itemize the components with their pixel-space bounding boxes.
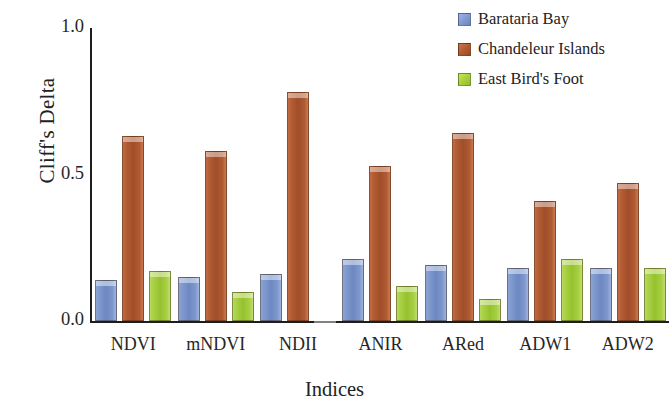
bar-group-ared [422,28,504,321]
bar-ndvi-east-bird-s-foot [149,271,171,321]
bar-group-adw1 [504,28,586,321]
x-axis-line [90,321,669,323]
bar-ared-chandeleur-islands [452,133,474,321]
x-axis-title: Indices [0,378,669,401]
bar-ndii-chandeleur-islands [287,92,309,321]
bar-ared-barataria-bay [425,265,447,321]
bar-anir-east-bird-s-foot [396,286,418,321]
bar-mndvi-east-bird-s-foot [232,292,254,321]
y-axis-tick-0-0: 0.0 [40,309,84,330]
bar-anir-barataria-bay [342,259,364,321]
y-axis-tick-0-5: 0.5 [40,163,84,184]
bar-adw1-east-bird-s-foot [561,259,583,321]
legend-swatch-barataria-bay [458,13,471,26]
bar-adw2-chandeleur-islands [617,183,639,321]
bar-adw2-barataria-bay [590,268,612,321]
bar-ared-east-bird-s-foot [479,299,501,321]
x-axis-tick-adw2: ADW2 [573,334,669,355]
bar-anir-chandeleur-islands [369,166,391,321]
bar-adw1-barataria-bay [507,268,529,321]
bar-chart-figure: Barataria Bay Chandeleur Islands East Bi… [0,0,669,412]
bar-ndvi-chandeleur-islands [122,136,144,321]
bar-group-mndvi [174,28,256,321]
plot-area [92,28,669,321]
bar-group-ndii [257,28,339,321]
bar-group-adw2 [587,28,669,321]
bar-mndvi-chandeleur-islands [205,151,227,321]
bar-group-ndvi [92,28,174,321]
y-axis-tick-labels: 0.00.51.0 [32,0,84,412]
y-axis-tick-1-0: 1.0 [40,16,84,37]
bar-group-anir [339,28,421,321]
legend-label-barataria-bay: Barataria Bay [478,11,569,28]
bar-adw1-chandeleur-islands [534,201,556,321]
bar-ndii-barataria-bay [260,274,282,321]
bar-ndvi-barataria-bay [95,280,117,321]
bar-mndvi-barataria-bay [178,277,200,321]
bar-adw2-east-bird-s-foot [644,268,666,321]
